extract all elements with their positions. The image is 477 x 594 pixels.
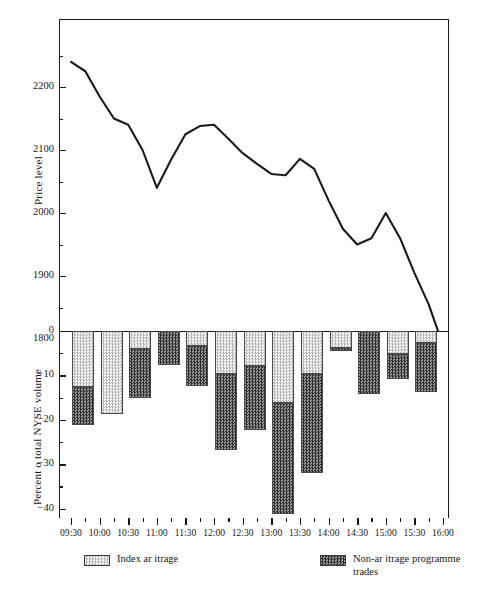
legend-swatch-dark-checker-icon (320, 555, 346, 566)
chart-legend: Index ar itrage Non-ar itrage programme … (0, 549, 477, 594)
x-minor-tick (171, 518, 172, 522)
bar-segment-index-arbitrage (129, 331, 151, 349)
bar-segment-non-arbitrage-programme-trades (330, 348, 352, 350)
legend-label-index-arbitrage: Index ar itrage (117, 553, 178, 566)
legend-entry-index-arbitrage: Index ar itrage (84, 553, 178, 566)
x-minor-tick (371, 518, 372, 522)
x-tick-mark (414, 518, 415, 525)
bar-segment-index-arbitrage (415, 331, 437, 343)
x-minor-tick (114, 518, 115, 522)
bar-segment-non-arbitrage-programme-trades (186, 346, 208, 386)
volume-bar (129, 331, 151, 518)
volume-bar (186, 331, 208, 518)
bar-segment-index-arbitrage (330, 331, 352, 348)
x-tick-mark (443, 518, 444, 525)
volume-bar (387, 331, 409, 518)
x-tick-mark (271, 518, 272, 525)
price-y-tick-label: 2000 (12, 207, 54, 218)
bar-segment-index-arbitrage (244, 331, 266, 366)
x-minor-tick (286, 518, 287, 522)
x-tick-mark (243, 518, 244, 525)
volume-y-tick-label: −10 (12, 369, 54, 380)
x-minor-tick (200, 518, 201, 522)
volume-bar (415, 331, 437, 518)
x-tick-label: 16:00 (423, 527, 463, 538)
x-tick-mark (300, 518, 301, 525)
bar-segment-non-arbitrage-programme-trades (215, 374, 237, 450)
bar-segment-non-arbitrage-programme-trades (301, 374, 323, 473)
bar-segment-non-arbitrage-programme-trades (129, 349, 151, 398)
bar-segment-index-arbitrage (215, 331, 237, 374)
volume-bar (101, 331, 123, 518)
bar-segment-index-arbitrage (272, 331, 294, 403)
bar-segment-non-arbitrage-programme-trades (72, 387, 94, 425)
x-tick-mark (214, 518, 215, 525)
x-minor-tick (85, 518, 86, 522)
volume-bar (158, 331, 180, 518)
bar-segment-non-arbitrage-programme-trades (158, 331, 180, 365)
bar-segment-non-arbitrage-programme-trades (387, 354, 409, 380)
legend-label-non-arbitrage-programme-trades: Non-ar itrage programme trades (353, 553, 473, 578)
x-minor-tick (228, 518, 229, 522)
bar-segment-non-arbitrage-programme-trades (244, 366, 266, 430)
x-minor-tick (343, 518, 344, 522)
bar-segment-non-arbitrage-programme-trades (358, 331, 380, 394)
volume-axis-label: Percent o total NYSE volume (31, 369, 43, 505)
x-minor-tick (143, 518, 144, 522)
x-tick-mark (100, 518, 101, 525)
bar-segment-index-arbitrage (186, 331, 208, 346)
x-tick-mark (357, 518, 358, 525)
volume-bar (301, 331, 323, 518)
chart-figure: Price level 22002100200019001800 Percent… (0, 0, 477, 594)
volume-bar (358, 331, 380, 518)
bar-segment-index-arbitrage (301, 331, 323, 374)
volume-bar (330, 331, 352, 518)
bar-segment-index-arbitrage (101, 331, 123, 414)
legend-swatch-light-checker-icon (84, 555, 110, 566)
x-tick-mark (157, 518, 158, 525)
volume-bar (244, 331, 266, 518)
x-minor-tick (429, 518, 430, 522)
volume-bar (72, 331, 94, 518)
x-tick-mark (329, 518, 330, 525)
volume-y-tick-label: −30 (12, 458, 54, 469)
volume-y-tick-label: −40 (12, 503, 54, 514)
price-y-tick-label: 1900 (12, 270, 54, 281)
bar-segment-index-arbitrage (387, 331, 409, 354)
volume-y-tick-label: 0 (12, 325, 54, 336)
price-axis-label: Price level (32, 156, 44, 205)
bar-segment-non-arbitrage-programme-trades (415, 343, 437, 392)
volume-bar (215, 331, 237, 518)
x-minor-tick (400, 518, 401, 522)
price-y-tick-label: 2200 (12, 81, 54, 92)
x-tick-mark (128, 518, 129, 525)
x-minor-tick (257, 518, 258, 522)
stacked-bar-chart (59, 331, 449, 518)
x-tick-mark (71, 518, 72, 525)
x-tick-mark (185, 518, 186, 525)
x-tick-mark (386, 518, 387, 525)
price-series-line (71, 62, 443, 331)
volume-bar (272, 331, 294, 518)
bar-segment-non-arbitrage-programme-trades (272, 403, 294, 514)
volume-y-tick-label: −20 (12, 414, 54, 425)
price-line-chart (59, 19, 449, 331)
price-y-tick-label: 2100 (12, 144, 54, 155)
bar-segment-index-arbitrage (72, 331, 94, 387)
x-minor-tick (314, 518, 315, 522)
legend-entry-non-arbitrage-programme-trades: Non-ar itrage programme trades (320, 553, 473, 578)
